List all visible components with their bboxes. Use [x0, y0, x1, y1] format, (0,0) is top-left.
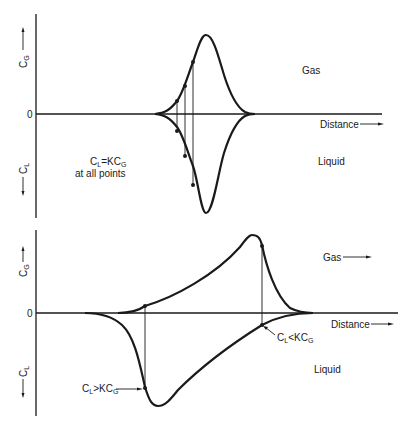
bottom-down-arrow-icon: [22, 379, 25, 398]
top-cg-axis-label: CG: [18, 55, 30, 68]
top-zero-label: 0: [27, 109, 33, 120]
top-point: [183, 84, 187, 88]
bottom-panel: 0 CG CL Gas Liquid Dista: [18, 230, 398, 416]
top-point: [191, 183, 195, 187]
svg-text:CL: CL: [18, 366, 30, 377]
top-equilibrium-annotation: CL=KCG: [90, 156, 126, 168]
top-gas-curve: [155, 35, 255, 114]
bottom-distance-arrow-icon: [371, 323, 394, 326]
top-point: [175, 99, 179, 103]
bottom-less-annotation: CL<KCG: [277, 332, 313, 344]
top-up-arrow-icon: [22, 27, 25, 50]
top-point: [175, 129, 179, 133]
concentration-profile-diagram: 0 CG CL Gas Liquid Dist: [0, 0, 415, 436]
bottom-gas-arrow-icon: [343, 256, 372, 259]
bottom-point: [143, 304, 147, 308]
top-down-arrow-icon: [22, 177, 25, 196]
top-gas-label: Gas: [302, 65, 320, 76]
bottom-point: [143, 386, 147, 390]
bottom-cg-axis-label: CG: [18, 264, 30, 277]
bottom-greater-arrow-icon: [116, 388, 143, 391]
bottom-liquid-curve: [85, 313, 313, 406]
bottom-greater-annotation: CL>KCG: [82, 383, 118, 395]
top-cl-axis-label: CL: [18, 163, 30, 174]
top-distance-arrow-icon: [360, 123, 384, 126]
svg-text:CG: CG: [18, 264, 30, 277]
bottom-point: [260, 244, 264, 248]
top-equilibrium-annotation-line2: at all points: [75, 168, 126, 179]
svg-text:CL: CL: [18, 163, 30, 174]
bottom-less-leader-icon: [263, 326, 275, 335]
top-point: [183, 154, 187, 158]
top-liquid-label: Liquid: [318, 156, 345, 167]
top-liquid-curve: [155, 114, 255, 213]
bottom-liquid-label: Liquid: [314, 364, 341, 375]
bottom-distance-label: Distance: [331, 319, 370, 330]
bottom-zero-label: 0: [27, 308, 33, 319]
top-panel: 0 CG CL Gas Liquid Dist: [18, 14, 384, 218]
top-distance-label: Distance: [320, 119, 359, 130]
bottom-cl-axis-label: CL: [18, 366, 30, 377]
bottom-gas-label: Gas: [323, 252, 341, 263]
bottom-up-arrow-icon: [22, 246, 25, 262]
bottom-gas-curve: [118, 235, 313, 313]
top-point: [191, 60, 195, 64]
svg-text:CG: CG: [18, 55, 30, 68]
